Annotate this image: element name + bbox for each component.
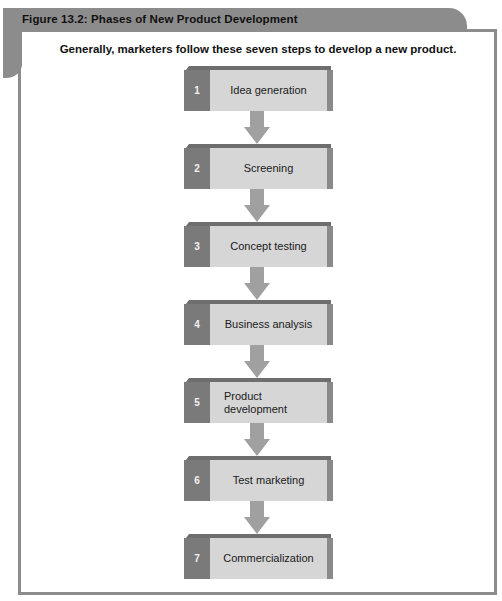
step-label: Product development [210, 382, 327, 423]
step-right-bevel [327, 226, 333, 267]
down-arrow-icon [244, 345, 270, 378]
step-concept-testing: 3 Concept testing [184, 222, 333, 267]
step-right-bevel [327, 304, 333, 345]
step-number: 2 [184, 148, 210, 189]
step-number: 4 [184, 304, 210, 345]
frame-left-band [3, 8, 22, 66]
figure-subtitle: Generally, marketers follow these seven … [22, 43, 494, 55]
step-business-analysis: 4 Business analysis [184, 300, 333, 345]
step-right-bevel [327, 538, 333, 579]
step-right-bevel [327, 148, 333, 189]
down-arrow-icon [244, 189, 270, 222]
step-label-line-1: Product [224, 390, 287, 403]
step-number: 7 [184, 538, 210, 579]
step-product-development: 5 Product development [184, 378, 333, 423]
step-right-bevel [327, 70, 333, 111]
step-right-bevel [327, 382, 333, 423]
down-arrow-icon [244, 423, 270, 456]
step-number: 6 [184, 460, 210, 501]
step-number: 3 [184, 226, 210, 267]
step-label: Business analysis [210, 304, 327, 345]
down-arrow-icon [244, 501, 270, 534]
step-label: Commercialization [210, 538, 327, 579]
frame-bottom-border [18, 592, 497, 595]
step-label: Idea generation [210, 70, 327, 111]
step-label: Screening [210, 148, 327, 189]
step-right-bevel [327, 460, 333, 501]
step-number: 5 [184, 382, 210, 423]
step-label: Test marketing [210, 460, 327, 501]
figure-title: Figure 13.2: Phases of New Product Devel… [22, 13, 298, 25]
step-test-marketing: 6 Test marketing [184, 456, 333, 501]
frame-left-border [18, 66, 21, 595]
step-screening: 2 Screening [184, 144, 333, 189]
down-arrow-icon [244, 267, 270, 300]
step-number: 1 [184, 70, 210, 111]
step-label-line-2: development [224, 403, 287, 416]
step-idea-generation: 1 Idea generation [184, 66, 333, 111]
frame-right-border [494, 29, 497, 595]
step-label: Concept testing [210, 226, 327, 267]
step-commercialization: 7 Commercialization [184, 534, 333, 579]
down-arrow-icon [244, 111, 270, 144]
